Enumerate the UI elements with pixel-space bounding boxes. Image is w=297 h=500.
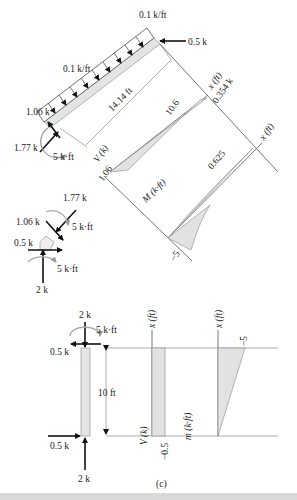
vertical-length-label: 10 ft xyxy=(98,388,116,398)
bottom-force-label: 2 k xyxy=(78,474,90,484)
vmoment-x-label: x (ft) xyxy=(214,310,225,329)
vshear-x-label: x (ft) xyxy=(147,310,158,329)
figure-caption: (c) xyxy=(156,479,167,490)
joint-moment-bottom-arc xyxy=(28,257,56,262)
joint-vertical-label: 2 k xyxy=(36,285,48,295)
joint-shear-arrow xyxy=(46,221,63,240)
moment-axis-label: M (k·ft) xyxy=(140,177,169,206)
vmoment-value: −5 xyxy=(239,336,249,346)
joint-horizontal-label: 0.5 k xyxy=(14,238,33,248)
left-force-up-label: 1.06 k xyxy=(26,107,50,117)
vshear-value: −0.5 xyxy=(160,443,170,460)
vshear-axis-label: V (k) xyxy=(139,426,150,445)
bottom-horizontal-label: 0.5 k xyxy=(50,441,69,451)
bottom-divider xyxy=(0,493,297,500)
top-moment-label: 5 k·ft xyxy=(96,325,117,335)
shear-positive-region xyxy=(110,117,182,172)
vshear-region xyxy=(152,348,165,436)
length-label: 14.14 ft xyxy=(106,85,134,113)
joint-axial-label: 1.77 k xyxy=(63,193,87,203)
vmoment-axis-label: m (k·ft) xyxy=(183,413,194,440)
load-mid-label: 0.1 k/ft xyxy=(63,64,91,74)
shear-axis-label: V (k) xyxy=(91,143,111,165)
top-horizontal-label: 0.5 k xyxy=(50,347,69,357)
moment-zero-value: 0.625 xyxy=(206,148,228,171)
vertical-shear-diagram: x (ft) V (k) −0.5 xyxy=(139,310,170,460)
shear-end-region xyxy=(182,98,207,117)
structural-analysis-diagram: 0.1 k/ft 0.1 k/ft 0.5 k 1.06 k 1.77 k 5 … xyxy=(0,0,297,500)
distributed-load xyxy=(37,28,154,122)
shear-start-value: 1.06 xyxy=(96,164,114,184)
load-top-label: 0.1 k/ft xyxy=(139,10,167,20)
joint-moment-bottom-label: 5 k·ft xyxy=(57,264,78,274)
left-moment-label: 5 k·ft xyxy=(53,152,74,162)
joint-free-body: 1.77 k 1.06 k 5 k·ft 0.5 k 5 k·ft 2 k xyxy=(14,193,93,295)
inclined-member: 0.1 k/ft 0.1 k/ft 0.5 k 1.06 k 1.77 k 5 … xyxy=(14,10,207,162)
right-force-label: 0.5 k xyxy=(188,37,207,47)
moment-start-value: −5 xyxy=(168,249,182,263)
shear-zero-value: 10.6 xyxy=(163,98,181,118)
inclined-beam xyxy=(44,38,160,128)
vmoment-region xyxy=(218,348,245,436)
left-axial-label: 1.77 k xyxy=(14,143,38,153)
vertical-beam xyxy=(81,348,90,436)
joint-shear-label: 1.06 k xyxy=(16,217,40,227)
joint-block xyxy=(40,236,54,250)
top-force-label: 2 k xyxy=(79,310,91,320)
vertical-moment-diagram: x (ft) m (k·ft) −5 xyxy=(183,310,249,440)
moment-negative-region xyxy=(168,205,210,250)
joint-moment-top-label: 5 k·ft xyxy=(72,222,93,232)
moment-x-label: x (ft) xyxy=(257,122,277,144)
